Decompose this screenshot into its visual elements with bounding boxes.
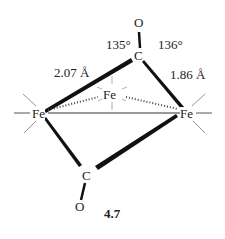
carbon-top-label: C [134, 49, 143, 62]
iron-right-label: Fe [180, 107, 193, 120]
compound-number-label: 4.7 [104, 207, 120, 220]
oxygen-bottom-label: O [75, 200, 84, 213]
angle-right-label: 136° [158, 38, 183, 51]
iron-back-label: Fe [103, 88, 116, 101]
bond-length-right-label: 1.86 Å [170, 68, 205, 81]
oxygen-top-label: O [134, 16, 143, 29]
iron-left-label: Fe [32, 107, 45, 120]
angle-left-label: 135° [106, 38, 131, 51]
carbon-bottom-label: C [82, 169, 91, 182]
bond-length-left-label: 2.07 Å [54, 66, 89, 79]
bridging-carbonyl-diagram: O 135° 136° C 2.07 Å 1.86 Å Fe Fe Fe C O… [0, 0, 225, 239]
